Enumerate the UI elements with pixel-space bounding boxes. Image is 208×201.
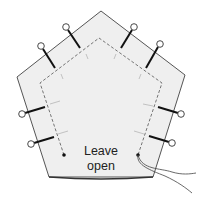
pin-head-icon <box>169 140 176 147</box>
leave-open-label-line1: Leave <box>84 144 118 158</box>
pin-head-icon <box>157 41 164 48</box>
pin-head-icon <box>28 141 35 148</box>
pentagon-pinning-diagram: Leave open <box>0 0 208 201</box>
pin-head-icon <box>19 111 26 118</box>
pin-head-icon <box>178 111 185 118</box>
pin-head-icon <box>38 43 45 50</box>
pin-head-icon <box>63 24 70 31</box>
stitch-start-dot <box>62 153 66 157</box>
leave-open-label-line2: open <box>87 159 115 173</box>
pin-head-icon <box>131 24 138 31</box>
